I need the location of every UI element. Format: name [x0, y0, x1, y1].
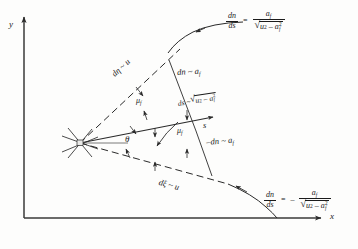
lower-formula-rhs: af √ u2 – a2f [299, 189, 331, 211]
lower-radicand: u2 – a2f [305, 200, 329, 212]
upper-lhs-num: dn [226, 12, 238, 21]
lower-rad-a-sub: f [325, 206, 326, 211]
ds-rad-a-sub: f [213, 98, 215, 103]
ds-rad-u-exp: 2 [199, 98, 202, 103]
theta-label: θ [125, 135, 129, 144]
upper-equals: = [243, 17, 248, 25]
upper-rad-u-exp: 2 [264, 25, 267, 30]
dn-upper-label: dn ~ af [177, 67, 201, 79]
streamline-label: s [203, 121, 206, 130]
lower-rhs-num: af [310, 189, 320, 198]
upper-rad-a-idx: 2f [279, 22, 282, 32]
dn-upper-text: dn ~ a [177, 66, 199, 77]
upper-formula-rhs: af √ u2 – a2f [253, 10, 285, 32]
lower-formula: dn ds = – af √ u2 – a2f [262, 189, 333, 211]
mu-right-label: μf [177, 127, 183, 136]
mu-upper-label: μf [136, 97, 142, 106]
ds-rad-minus: – [203, 96, 208, 104]
lower-formula-lhs: dn ds [264, 191, 276, 209]
upper-rhs-radical: √ u2 – a2f [255, 21, 283, 33]
upper-formula: dn ds = af √ u2 – a2f [224, 10, 287, 32]
lower-sign: – [291, 196, 295, 204]
mu-upper-subscript: f [140, 101, 142, 106]
ds-rad-a-idx: 2f [213, 94, 217, 104]
upper-lhs-den: ds [226, 21, 237, 31]
mu-lower-subscript: f [150, 144, 152, 149]
lower-rad-minus: – [315, 202, 319, 210]
upper-rhs-num: af [264, 10, 274, 19]
upper-radicand: u2 – a2f [259, 21, 283, 33]
upper-formula-lhs: dn ds [226, 12, 238, 30]
figure-canvas [0, 0, 358, 249]
lower-rhs-a-sub: f [316, 193, 318, 198]
lower-lhs-den: ds [264, 200, 275, 210]
lower-rad-u-exp: 2 [310, 204, 313, 209]
lower-rad-a-idx: 2f [325, 201, 328, 211]
axis-x-label: x [330, 212, 334, 221]
dn-upper-sub: f [199, 71, 201, 77]
upper-rhs-a-sub: f [270, 14, 272, 19]
upper-rad-a-sub: f [279, 27, 280, 32]
mu-right-subscript: f [181, 131, 183, 136]
lower-lhs-num: dn [264, 191, 276, 200]
lower-rhs-radical: √ u2 – a2f [301, 200, 329, 212]
lower-characteristic-line [80, 143, 228, 184]
upper-rad-minus: – [269, 23, 273, 31]
upper-rhs-den: √ u2 – a2f [253, 19, 285, 32]
axis-y-label: y [9, 20, 13, 29]
lower-rhs-den: √ u2 – a2f [299, 198, 331, 211]
ds-label: ds ~ [177, 98, 191, 107]
dn-lower-text: –dn ~ a [206, 135, 233, 147]
lower-equals: = [281, 196, 286, 204]
